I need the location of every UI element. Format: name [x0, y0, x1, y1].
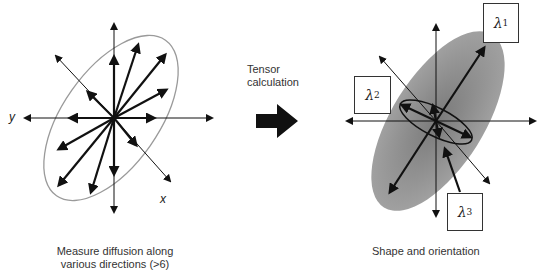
lambda3-subscript: 3: [467, 207, 473, 217]
diagram-canvas: [0, 0, 543, 277]
tensor-calculation-label: Tensor calculation: [247, 63, 299, 89]
y-axis-label: y: [9, 110, 15, 124]
left-caption: Measure diffusion along various directio…: [40, 245, 190, 271]
tensor-label-line1: Tensor: [247, 63, 299, 76]
lambda1-subscript: 1: [503, 18, 509, 28]
lambda2-subscript: 2: [374, 90, 380, 100]
right-caption: Shape and orientation: [372, 245, 482, 258]
lambda1-symbol: λ: [494, 15, 503, 31]
x-axis-label: x: [160, 192, 166, 206]
right-diagram: [345, 10, 535, 232]
lambda3-symbol: λ: [458, 204, 467, 220]
lambda2-box: λ2: [354, 76, 391, 114]
left-diagram: [17, 13, 212, 224]
lambda3-box: λ3: [447, 193, 483, 231]
right-arrow-icon: [256, 104, 298, 138]
left-caption-line1: Measure diffusion along: [40, 245, 190, 258]
lambda2-symbol: λ: [365, 87, 374, 103]
tensor-label-line2: calculation: [247, 76, 299, 89]
lambda1-box: λ1: [483, 3, 519, 43]
left-caption-line2: various directions (>6): [40, 258, 190, 271]
